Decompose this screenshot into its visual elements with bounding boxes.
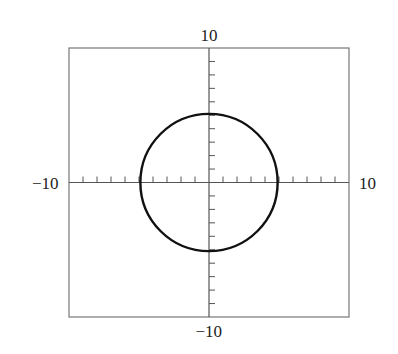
y-max-label: 10 <box>201 27 218 44</box>
y-min-label: −10 <box>196 323 223 340</box>
x-min-label: −10 <box>32 175 59 192</box>
x-max-label: 10 <box>359 175 376 192</box>
plot-canvas <box>0 0 398 354</box>
